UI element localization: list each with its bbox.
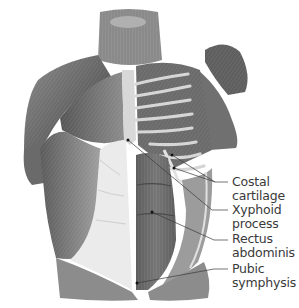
label-xyphoid-process: Xyphoid process — [232, 203, 281, 231]
label-line: Costal — [232, 175, 285, 189]
label-costal-cartilage: Costal cartilage — [232, 175, 285, 203]
label-line: symphysis — [232, 276, 296, 290]
label-line: Xyphoid — [232, 203, 281, 217]
label-pubic-symphysis: Pubic symphysis — [232, 262, 296, 290]
label-line: Pubic — [232, 262, 296, 276]
label-line: process — [232, 217, 281, 231]
label-line: cartilage — [232, 189, 285, 203]
label-line: Rectus — [232, 232, 295, 246]
label-line: abdominis — [232, 246, 295, 260]
label-rectus-abdominis: Rectus abdominis — [232, 232, 295, 260]
anatomy-figure: Costal cartilage Xyphoid process Rectus … — [0, 0, 299, 308]
rectus-abdominis-muscle — [136, 153, 176, 290]
neck — [98, 9, 162, 65]
sternum — [122, 70, 136, 145]
